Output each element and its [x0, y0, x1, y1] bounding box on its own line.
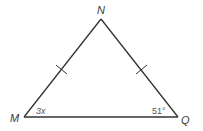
side-mn [24, 19, 101, 117]
triangle-sides [24, 19, 178, 117]
vertex-label-n: N [97, 4, 105, 16]
side-nq [101, 19, 178, 117]
angle-label-q: 51° [152, 106, 166, 116]
vertex-label-q: Q [181, 114, 190, 126]
tick-mark-mn [56, 65, 67, 74]
triangle-diagram: N M Q 3x 51° [0, 0, 203, 131]
vertex-label-m: M [10, 112, 20, 124]
angle-label-m: 3x [36, 106, 46, 116]
